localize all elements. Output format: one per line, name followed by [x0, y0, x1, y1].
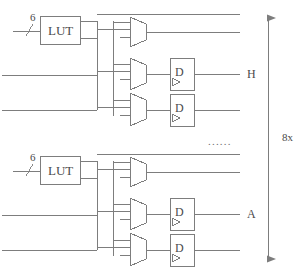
bus-width-label-a: 6: [30, 152, 36, 163]
mux-top-a: [97, 157, 146, 187]
lut-output-routing-a: [80, 161, 113, 256]
flipflop-mid-a: [146, 198, 240, 230]
mux-top-h: [97, 17, 146, 47]
circuit-diagram: 6 LUT D D H ...... 6 LUT D D A 8x: [0, 0, 305, 277]
flipflop-mid-h: [146, 58, 240, 90]
mux-bot-h: [2, 93, 146, 126]
lut-output-routing-h: [80, 21, 113, 116]
flipflop-label-bot-a: D: [175, 242, 184, 254]
lut-label-h: LUT: [48, 24, 73, 37]
output-label-h: H: [247, 68, 256, 80]
logic-block-h: [2, 14, 240, 126]
flipflop-bot-a: [146, 234, 240, 266]
flipflop-bot-h: [146, 94, 240, 126]
mux-mid-a: [2, 198, 146, 230]
mux-bot-a: [2, 233, 146, 266]
lut-input-bus-h: [13, 24, 40, 36]
flipflop-label-mid-a: D: [175, 206, 184, 218]
repeat-marker: ......: [208, 136, 232, 147]
multiplicity-label: 8x: [282, 132, 293, 143]
flipflop-label-bot-h: D: [175, 102, 184, 114]
diagram-canvas: [0, 0, 305, 277]
flipflop-label-mid-h: D: [175, 66, 184, 78]
mux-mid-h: [2, 58, 146, 90]
lut-input-bus-a: [13, 164, 40, 176]
output-label-a: A: [247, 208, 256, 220]
lut-label-a: LUT: [48, 164, 73, 177]
logic-block-a: [2, 154, 240, 266]
bus-width-label-h: 6: [30, 12, 36, 23]
